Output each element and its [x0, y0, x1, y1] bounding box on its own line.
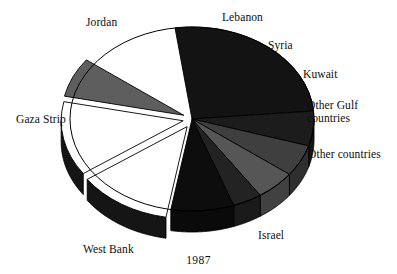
slice-label-gaza-strip: Gaza Strip	[16, 113, 66, 126]
slice-label-other-gulf-countries: Other Gulf countries	[307, 99, 377, 125]
chart-caption-year: 1987	[0, 254, 397, 266]
slice-label-israel: Israel	[258, 229, 284, 242]
pie-chart-svg	[0, 0, 397, 274]
slice-label-kuwait: Kuwait	[303, 68, 337, 81]
slice-label-syria: Syria	[268, 39, 293, 52]
other-gulf-line-2: countries	[307, 112, 350, 124]
pie-chart-figure: Jordan Lebanon Syria Kuwait Other Gulf c…	[0, 0, 397, 274]
slice-label-other-countries: Other countries	[308, 148, 381, 161]
other-gulf-line-1: Other Gulf	[307, 99, 358, 111]
slice-label-jordan: Jordan	[86, 16, 117, 29]
slice-label-lebanon: Lebanon	[222, 11, 263, 24]
